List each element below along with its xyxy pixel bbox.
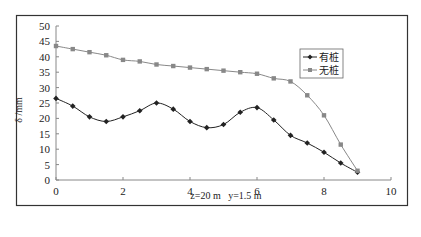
legend-marker-square	[308, 68, 312, 72]
x-tick-label: 10	[386, 185, 398, 197]
y-tick-label: 50	[39, 20, 51, 32]
data-point-square	[272, 76, 276, 80]
y-tick-label: 25	[39, 97, 51, 109]
data-point-square	[305, 93, 309, 97]
data-point-square	[121, 58, 125, 62]
data-point-square	[205, 67, 209, 71]
y-tick-label: 5	[45, 159, 51, 171]
y-tick-label: 10	[39, 143, 51, 155]
data-point-square	[322, 113, 326, 117]
y-tick-label: 30	[39, 82, 51, 94]
x-tick-label: 8	[321, 185, 327, 197]
y-tick-label: 0	[45, 174, 51, 186]
data-point-square	[255, 72, 259, 76]
legend-label: 有桩	[319, 51, 339, 63]
y-tick-label: 20	[39, 112, 51, 124]
data-point-square	[71, 47, 75, 51]
data-point-square	[339, 142, 343, 146]
data-point-square	[355, 169, 359, 173]
data-point-square	[154, 62, 158, 66]
data-point-square	[288, 79, 292, 83]
line-chart: 051015202530354045500246810 δ /mm z=20 m…	[0, 0, 421, 237]
data-point-square	[87, 50, 91, 54]
data-point-square	[171, 64, 175, 68]
legend: 有桩无桩	[300, 49, 343, 78]
y-axis-title: δ /mm	[13, 97, 24, 123]
x-axis-title: z=20 m y=1.5 m	[190, 190, 261, 201]
y-tick-label: 45	[39, 35, 51, 47]
data-point-square	[54, 44, 58, 48]
legend-label: 无桩	[319, 64, 339, 76]
data-point-square	[138, 59, 142, 63]
data-point-square	[221, 68, 225, 72]
y-tick-label: 15	[39, 128, 51, 140]
y-tick-label: 35	[39, 66, 51, 78]
x-tick-label: 2	[120, 185, 126, 197]
x-tick-label: 0	[53, 185, 59, 197]
data-point-square	[188, 65, 192, 69]
data-point-square	[104, 53, 108, 57]
y-tick-label: 40	[39, 51, 51, 63]
chart-frame	[17, 16, 408, 206]
data-point-square	[238, 70, 242, 74]
